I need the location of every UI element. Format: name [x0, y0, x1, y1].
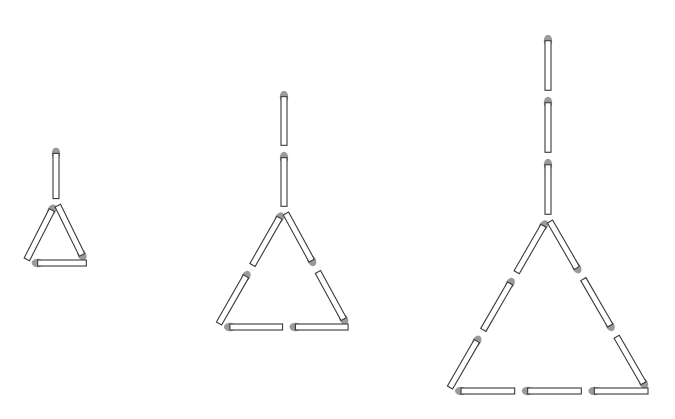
left-side-match	[480, 276, 517, 332]
match-stick-body	[38, 260, 87, 266]
match-stick-body	[545, 41, 551, 91]
match-stick-body	[250, 216, 282, 266]
figure-3	[446, 35, 650, 395]
match-stick-body	[281, 97, 287, 146]
bottom-match	[455, 387, 515, 395]
match-stick-body	[545, 103, 551, 153]
bottom-match	[588, 387, 648, 395]
right-side-match	[314, 270, 350, 326]
right-side-match	[580, 277, 617, 333]
right-side-match	[282, 211, 318, 267]
match-stick-body	[24, 209, 54, 261]
match-stick-body	[283, 212, 314, 262]
match-stick-body	[216, 275, 248, 325]
left-side-match	[513, 218, 550, 274]
figure-2	[215, 91, 350, 332]
bottom-match	[522, 387, 582, 395]
figure-1	[23, 147, 88, 267]
left-side-match	[446, 334, 483, 390]
match-stick-body	[514, 224, 546, 273]
stem-match	[52, 147, 60, 198]
stem-match	[280, 152, 288, 207]
match-stick-body	[545, 165, 551, 215]
bottom-match	[32, 259, 87, 267]
stem-match	[544, 97, 552, 153]
match-stick-body	[55, 204, 85, 256]
match-stick-body	[230, 324, 283, 330]
match-stick-body	[481, 282, 513, 331]
left-side-match	[23, 203, 58, 261]
bottom-match	[289, 323, 348, 331]
matchstick-pattern-diagram	[0, 0, 675, 419]
match-stick-body	[295, 324, 348, 330]
stem-match	[544, 159, 552, 215]
left-side-match	[215, 269, 252, 326]
stem-match	[544, 35, 552, 91]
match-stick-body	[53, 153, 59, 198]
match-stick-body	[547, 220, 579, 269]
match-stick-body	[447, 340, 479, 389]
right-side-match	[546, 219, 583, 275]
match-stick-body	[594, 388, 648, 394]
match-stick-body	[528, 388, 582, 394]
left-side-match	[249, 211, 286, 268]
match-stick-body	[315, 271, 346, 321]
stem-match	[280, 91, 288, 146]
match-stick-body	[461, 388, 515, 394]
bottom-match	[224, 323, 283, 331]
right-side-match	[613, 335, 650, 391]
match-stick-body	[614, 335, 646, 384]
match-stick-body	[581, 278, 613, 327]
right-side-match	[54, 204, 88, 262]
match-stick-body	[281, 158, 287, 207]
